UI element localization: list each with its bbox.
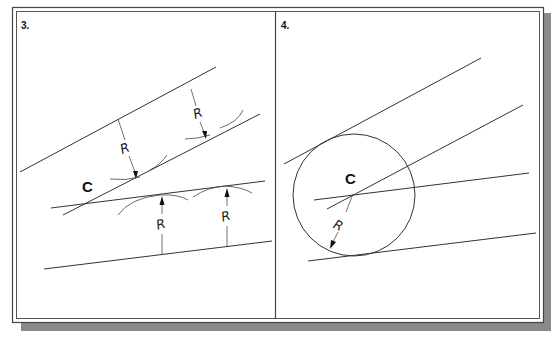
center-label: C [345,170,356,187]
inner-frame [17,12,540,319]
panel-4-label: 4. [281,20,290,31]
panel-3-label: 3. [21,20,30,31]
construction-diagram: 3. R R R R C [0,0,555,337]
center-label: C [82,178,93,195]
